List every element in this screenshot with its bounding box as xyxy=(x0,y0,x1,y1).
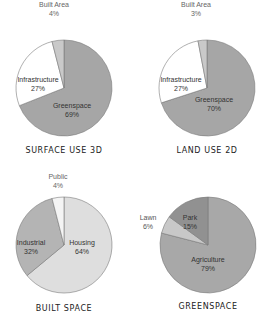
slice-value: 79% xyxy=(201,265,215,272)
slice-label: Public xyxy=(48,173,68,180)
slice-label: Greenspace xyxy=(53,102,91,110)
chart-title-built-space: BUILT SPACE xyxy=(36,304,92,313)
slice-label: Park xyxy=(183,214,198,221)
pie-surface-use-3d: Greenspace69%Infrastructure27%Built Area… xyxy=(16,1,112,136)
chart-title-surface-use: SURFACE USE 3D xyxy=(25,146,102,155)
slice-label: Lawn xyxy=(140,214,157,221)
slice-value: 70% xyxy=(207,105,221,112)
slice-value: 64% xyxy=(75,248,89,255)
slice-label: Greenspace xyxy=(195,96,233,104)
slice-value: 6% xyxy=(143,223,153,230)
pie-built-space: Housing64%Industrial32%Public4% xyxy=(16,173,112,293)
slice-label: Infrastructure xyxy=(160,76,201,83)
slice-label: Built Area xyxy=(39,1,69,8)
slice-value: 4% xyxy=(49,10,59,17)
pie-charts-figure: Greenspace69%Infrastructure27%Built Area… xyxy=(0,0,273,321)
slice-label: Agriculture xyxy=(191,256,225,264)
slice-value: 15% xyxy=(183,223,197,230)
slice-label: Infrastructure xyxy=(17,76,58,83)
slice-label: Industrial xyxy=(17,239,46,246)
slice-value: 27% xyxy=(174,85,188,92)
pie-land-use-2d: Greenspace70%Infrastructure27%Built Area… xyxy=(159,1,255,136)
chart-title-greenspace: GREENSPACE xyxy=(178,302,237,311)
slice-value: 69% xyxy=(65,111,79,118)
chart-title-land-use: LAND USE 2D xyxy=(176,146,237,155)
slice-label: Built Area xyxy=(181,1,211,8)
slice-value: 3% xyxy=(191,10,201,17)
slice-value: 4% xyxy=(53,182,63,189)
slice-value: 27% xyxy=(31,85,45,92)
slice-label: Housing xyxy=(69,239,95,247)
pie-greenspace: Agriculture79%Lawn6%Park15% xyxy=(140,197,256,293)
slice-value: 32% xyxy=(24,248,38,255)
